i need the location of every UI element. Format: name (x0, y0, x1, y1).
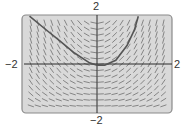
x-max-label: 2 (174, 59, 180, 70)
slope-field-plot (0, 0, 184, 129)
slope-mark (90, 76, 96, 77)
y-min-label: −2 (90, 115, 103, 126)
slope-mark (97, 82, 103, 83)
slope-field-figure: 2 −2 2 −2 (0, 0, 184, 129)
x-min-label: −2 (5, 59, 18, 70)
slope-mark (77, 106, 83, 107)
slope-mark (111, 106, 117, 107)
y-max-label: 2 (93, 1, 99, 12)
